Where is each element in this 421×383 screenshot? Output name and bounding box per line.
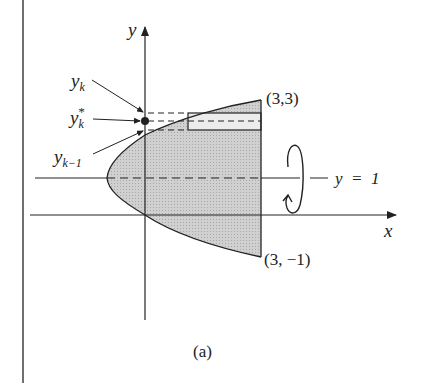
solid-of-revolution-diagram: y x (3,3) (3, −1) y = 1 yk yk* yk−1 (a) (0, 0, 421, 383)
x-axis-label: x (383, 220, 393, 241)
point-3-3-label: (3,3) (266, 89, 299, 108)
y-axis-label: y (126, 19, 137, 40)
point-3-minus-1-label: (3, −1) (264, 250, 310, 269)
pointer-yk-star (93, 119, 140, 121)
label-yk-minus-1: yk−1 (52, 146, 82, 170)
label-yk: yk (69, 70, 85, 94)
label-yk-star: yk* (68, 104, 85, 131)
axis-of-rotation-label: y = 1 (333, 169, 380, 188)
figure-caption: (a) (193, 342, 212, 361)
pointer-yk (92, 80, 143, 112)
rotation-arrowhead (283, 195, 292, 202)
rotation-arrow-icon (286, 145, 303, 213)
sample-point (141, 117, 149, 125)
